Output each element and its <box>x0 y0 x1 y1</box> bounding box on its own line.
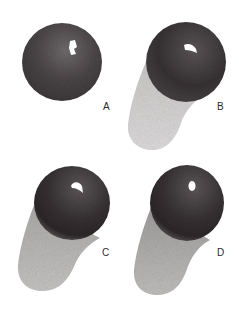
panel-d <box>134 165 224 295</box>
label-c: C <box>102 248 109 258</box>
shadow-illustration <box>0 0 239 312</box>
label-b: B <box>217 102 224 112</box>
highlight-d-icon <box>189 181 196 191</box>
sphere-a <box>22 23 102 101</box>
label-a: A <box>103 102 110 112</box>
sphere-c <box>34 166 110 240</box>
sphere-b <box>146 22 226 102</box>
panel-b <box>128 22 226 150</box>
label-d: D <box>217 248 224 258</box>
sphere-d <box>150 165 224 241</box>
panel-a <box>22 23 102 101</box>
panel-c <box>18 166 110 291</box>
